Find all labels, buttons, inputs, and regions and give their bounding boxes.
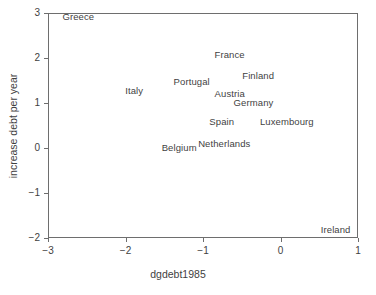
data-point-label: Netherlands	[198, 138, 250, 149]
x-tick-mark	[126, 238, 127, 242]
x-tick-label: −2	[120, 245, 131, 257]
x-tick-mark	[203, 238, 204, 242]
x-tick-label: 0	[278, 245, 284, 257]
y-tick-label: 3	[18, 7, 40, 19]
data-point-label: Germany	[234, 97, 274, 108]
y-tick-label: −1	[18, 187, 40, 199]
data-point-label: Greece	[62, 11, 94, 22]
data-point-label: Portugal	[174, 76, 210, 87]
x-tick-mark	[281, 238, 282, 242]
y-axis-title: increase debt per year	[6, 0, 20, 252]
x-tick-label: −3	[42, 245, 53, 257]
y-tick-mark	[44, 238, 48, 239]
data-point-label: Luxembourg	[260, 116, 314, 127]
data-point-label: France	[215, 49, 245, 60]
y-tick-mark	[44, 148, 48, 149]
x-tick-mark	[48, 238, 49, 242]
y-axis-title-text: increase debt per year	[7, 74, 19, 178]
data-point-label: Ireland	[321, 224, 351, 235]
y-tick-label: 2	[18, 52, 40, 64]
x-axis-title-text: dgdebt1985	[150, 268, 205, 280]
data-point-label: Belgium	[162, 142, 197, 153]
x-tick-label: 1	[355, 245, 361, 257]
y-tick-mark	[44, 13, 48, 14]
y-tick-mark	[44, 193, 48, 194]
x-axis-title: dgdebt1985	[0, 268, 376, 280]
data-point-label: Finland	[242, 70, 274, 81]
y-tick-mark	[44, 58, 48, 59]
scatter-plot-figure: GreeceFranceFinlandPortugalItalyAustriaG…	[0, 0, 376, 295]
y-tick-mark	[44, 103, 48, 104]
y-tick-label: −2	[18, 232, 40, 244]
x-tick-mark	[358, 238, 359, 242]
x-tick-label: −1	[197, 245, 208, 257]
plot-area-frame: GreeceFranceFinlandPortugalItalyAustriaG…	[48, 13, 358, 238]
y-tick-label: 0	[18, 142, 40, 154]
data-point-label: Italy	[125, 85, 143, 96]
y-tick-label: 1	[18, 97, 40, 109]
data-point-label: Spain	[209, 116, 234, 127]
